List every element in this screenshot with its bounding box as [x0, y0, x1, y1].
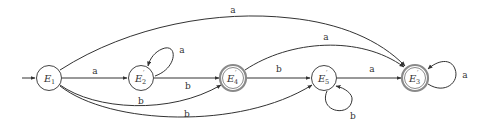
edge-label-e4p-e5p: b: [276, 64, 282, 74]
edge-label-e4p-e3p: a: [323, 32, 329, 42]
edge-e3p-loop: [428, 61, 456, 88]
state-e5p: E 5 ′: [312, 66, 337, 91]
svg-text:4: 4: [234, 78, 238, 86]
edge-label-e1-e2p: a: [92, 66, 98, 76]
edge-label-e3p-loop: a: [462, 70, 468, 80]
edge-label-e2p-loop: a: [179, 45, 185, 55]
automaton-diagram: a a b b a b a b b a a E 1 E 2 ′ E 4 ′: [0, 0, 487, 130]
svg-text:5: 5: [325, 78, 329, 86]
svg-text:3: 3: [416, 78, 420, 86]
edge-label-e2p-e4p: b: [185, 81, 191, 91]
edge-label-e1-e3p: a: [230, 5, 236, 15]
edge-label-e1-e4p: b: [138, 96, 144, 106]
state-e1: E 1: [37, 66, 62, 91]
edge-label-e5p-e3p: a: [369, 64, 375, 74]
state-e2p: E 2 ′: [129, 66, 154, 91]
state-e4p: E 4 ′: [220, 65, 246, 91]
state-e3p: E 3 ′: [402, 65, 428, 91]
svg-text:2: 2: [142, 78, 146, 86]
edge-label-e1-e5p: b: [184, 109, 190, 119]
edge-label-e5p-loop: b: [350, 111, 356, 121]
edge-e1-e3p: [60, 16, 405, 70]
svg-text:1: 1: [51, 78, 55, 86]
